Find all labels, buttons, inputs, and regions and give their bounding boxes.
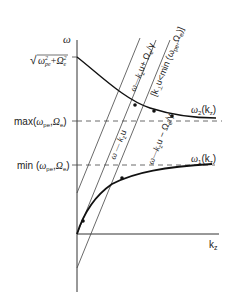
intersection-dot bbox=[81, 219, 85, 223]
intersection-dot bbox=[133, 103, 137, 107]
omega1-label: ω1(kz) bbox=[191, 153, 216, 165]
intersection-dot bbox=[152, 109, 156, 113]
dispersion-diagram: ω kz √ ω2pe+Ω2e max(ωpe,Ωe) min (ωpe,Ωe)… bbox=[0, 0, 230, 295]
omega2-label: ω2(kz) bbox=[191, 104, 216, 116]
min-label: min (ωpe,Ωe) bbox=[17, 160, 70, 172]
svg-text:min (ωpe,Ωe): min (ωpe,Ωe) bbox=[17, 160, 70, 172]
svg-text:√: √ bbox=[30, 53, 37, 67]
sqrt-label: √ ω2pe+Ω2e bbox=[30, 53, 68, 67]
line-plus-omega-over-gamma bbox=[77, 38, 140, 193]
svg-text:ω2pe+Ω2e: ω2pe+Ω2e bbox=[38, 55, 67, 67]
curve-omega1 bbox=[77, 164, 212, 234]
condition-label: [k⊥u<min (ωpe,Ωe)] bbox=[149, 25, 187, 98]
line-plus-label: ω—kzu+ Ωe/γ bbox=[128, 41, 158, 93]
line-minus-label: ω—kzu − Ωe/γ bbox=[146, 112, 177, 166]
line-center-label: ω — kzu bbox=[108, 128, 130, 161]
omega-axis-label: ω bbox=[63, 33, 71, 45]
intersection-dot bbox=[120, 176, 124, 180]
svg-text:max(ωpe,Ωe): max(ωpe,Ωe) bbox=[14, 116, 67, 128]
max-label: max(ωpe,Ωe) bbox=[14, 116, 67, 128]
kz-axis-label: kz bbox=[209, 239, 218, 251]
